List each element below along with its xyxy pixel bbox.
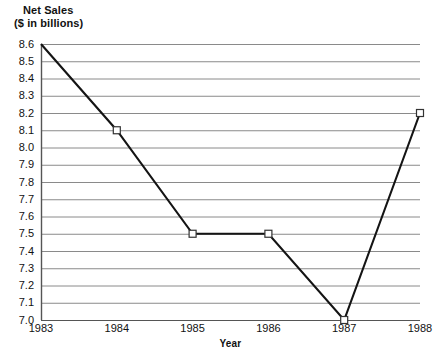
y-tick-8.3: 8.3 [2, 90, 34, 101]
x-tick-1983: 1983 [9, 322, 73, 334]
data-point-1988 [417, 110, 424, 117]
y-tick-8.5: 8.5 [2, 56, 34, 67]
y-tick-7.5: 7.5 [2, 228, 34, 239]
y-tick-8.1: 8.1 [2, 125, 34, 136]
chart-title-line-1: Net Sales [14, 4, 83, 17]
y-tick-8.2: 8.2 [2, 108, 34, 119]
x-tick-1987: 1987 [312, 322, 376, 334]
gridlines [41, 45, 420, 321]
plot-area [41, 44, 420, 320]
y-tick-7.4: 7.4 [2, 246, 34, 257]
x-tick-1984: 1984 [85, 322, 149, 334]
x-tick-1988: 1988 [388, 322, 438, 334]
chart-title-line-2: ($ in billions) [14, 17, 83, 30]
plot-svg [41, 44, 420, 320]
data-point-1984 [113, 127, 120, 134]
y-tick-7.9: 7.9 [2, 159, 34, 170]
y-tick-7.8: 7.8 [2, 177, 34, 188]
y-tick-8.6: 8.6 [2, 39, 34, 50]
y-tick-8.4: 8.4 [2, 73, 34, 84]
y-tick-7.6: 7.6 [2, 211, 34, 222]
data-point-1986 [265, 230, 272, 237]
x-tick-1985: 1985 [161, 322, 225, 334]
x-tick-1986: 1986 [236, 322, 300, 334]
chart-title: Net Sales ($ in billions) [14, 4, 83, 30]
y-tick-8.0: 8.0 [2, 142, 34, 153]
y-tick-7.3: 7.3 [2, 263, 34, 274]
x-axis-title: Year [41, 338, 420, 349]
net-sales-line-chart: Net Sales ($ in billions) 8.68.58.48.38.… [0, 0, 438, 356]
data-point-1985 [189, 230, 196, 237]
y-tick-7.2: 7.2 [2, 280, 34, 291]
y-tick-7.1: 7.1 [2, 297, 34, 308]
y-tick-7.7: 7.7 [2, 194, 34, 205]
